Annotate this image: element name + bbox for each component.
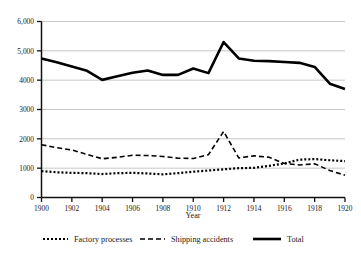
legend-label-factory-processes: Factory processes bbox=[74, 235, 132, 244]
x-tick-label-1916: 1916 bbox=[277, 204, 292, 213]
x-tick-label-1914: 1914 bbox=[247, 204, 262, 213]
x-tick-label-1904: 1904 bbox=[95, 204, 110, 213]
x-tick-label-1908: 1908 bbox=[156, 204, 171, 213]
series-line-shipping-accidents bbox=[42, 132, 346, 176]
y-tick-label-1000: 1000 bbox=[19, 164, 34, 173]
x-tick-label-1900: 1900 bbox=[34, 204, 49, 213]
x-tick-label-1912: 1912 bbox=[216, 204, 231, 213]
x-tick-label-1902: 1902 bbox=[64, 204, 79, 213]
chart-figure: 010002000300040005,0006,000 190019021904… bbox=[0, 0, 361, 261]
data-series-group bbox=[42, 42, 346, 175]
x-axis-title: Year bbox=[185, 211, 200, 220]
y-tick-label-3000: 3000 bbox=[19, 105, 34, 114]
y-tick-label-0: 0 bbox=[30, 193, 34, 202]
x-tick-label-1906: 1906 bbox=[125, 204, 140, 213]
x-axis bbox=[42, 198, 346, 203]
line-chart: 010002000300040005,0006,000 190019021904… bbox=[0, 0, 361, 261]
y-tick-label-5000: 5,000 bbox=[17, 47, 34, 56]
y-tick-label-2000: 2000 bbox=[19, 135, 34, 144]
series-line-factory-processes bbox=[42, 159, 346, 174]
y-axis bbox=[37, 22, 42, 198]
series-line-total bbox=[42, 42, 346, 89]
y-axis-tick-labels: 010002000300040005,0006,000 bbox=[17, 17, 34, 202]
y-tick-label-6000: 6,000 bbox=[17, 17, 34, 26]
x-tick-label-1920: 1920 bbox=[338, 204, 353, 213]
chart-legend: Factory processesShipping accidentsTotal bbox=[43, 235, 304, 244]
x-tick-label-1918: 1918 bbox=[307, 204, 322, 213]
y-tick-label-4000: 4000 bbox=[19, 76, 34, 85]
legend-label-total: Total bbox=[287, 235, 304, 244]
legend-label-shipping-accidents: Shipping accidents bbox=[171, 235, 233, 244]
